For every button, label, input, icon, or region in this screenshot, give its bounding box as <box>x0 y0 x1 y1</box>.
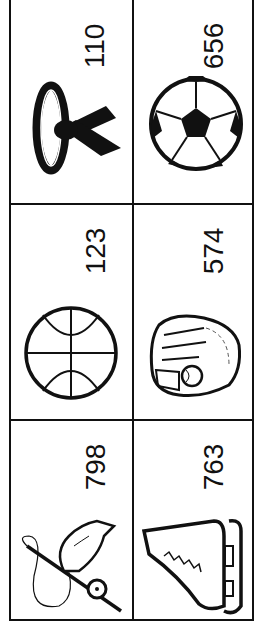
karate-belt-icon <box>21 78 131 178</box>
cell-number: 123 <box>80 228 112 275</box>
cell-number: 763 <box>198 444 230 491</box>
basketball-icon <box>21 305 121 401</box>
cell-number: 110 <box>79 24 111 69</box>
grid-bottom-border <box>9 619 254 621</box>
grid-cell-basketball: 123 <box>11 205 132 419</box>
cell-number: 574 <box>198 228 230 275</box>
grid-cell-ice-skate: 763 <box>134 421 252 619</box>
cell-number: 656 <box>198 23 230 70</box>
grid-right-border <box>252 0 254 621</box>
grid-cell-soccer: 656 <box>134 0 252 203</box>
soccer-ball-icon <box>148 76 244 172</box>
cell-number: 798 <box>80 444 112 491</box>
grid-cell-karate: 110 <box>11 0 132 203</box>
baseball-glove-icon <box>144 310 244 400</box>
ice-skate-icon <box>139 516 249 616</box>
grid-cell-baseball-glove: 574 <box>134 205 252 419</box>
grid-cell-fishing: 798 <box>11 421 132 619</box>
fishing-rod-icon <box>19 516 129 616</box>
